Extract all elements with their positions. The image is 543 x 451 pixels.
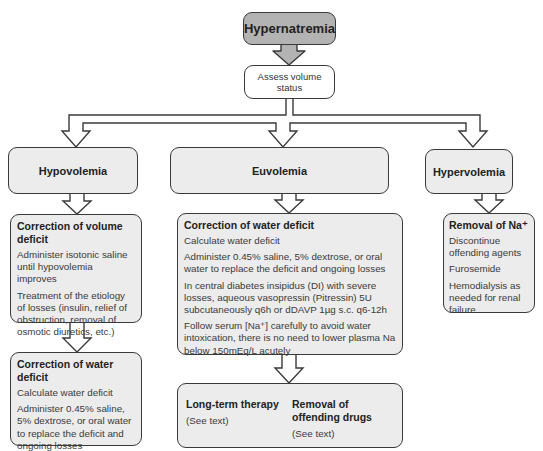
- hyper-step1-line: Discontinue offending agents: [449, 235, 529, 259]
- hypo-step2-line: Administer 0.45% saline, 5% dextrose, or…: [17, 403, 135, 451]
- hypo-step2-line: Calculate water deficit: [17, 387, 135, 399]
- arrow-root-to-assess: [273, 44, 305, 65]
- hypovolemia-label: Hypovolemia: [39, 165, 107, 177]
- arrow-hypo-to-step1: [63, 193, 91, 214]
- hypovolemia-node: Hypovolemia: [8, 147, 138, 194]
- arrow-eu-step1-to-step2: [275, 354, 303, 383]
- eu-step1-line: Administer 0.45% saline, 5% dextrose, or…: [184, 251, 396, 275]
- root-node-hypernatremia: Hypernatremia: [243, 12, 336, 45]
- assess-volume-node: Assess volume status: [244, 65, 335, 99]
- euvolemia-node: Euvolemia: [170, 147, 389, 194]
- hyper-step1-heading: Removal of Na⁺: [449, 219, 529, 232]
- hypo-volume-correction-node: Correction of volume deficit Administer …: [10, 214, 142, 323]
- eu-step1-line: Follow serum [Na⁺] carefully to avoid wa…: [184, 320, 396, 357]
- arrow-hyper-to-step1: [475, 193, 503, 213]
- hyper-na-removal-node: Removal of Na⁺ Discontinue offending age…: [443, 213, 535, 313]
- branch-connector-outer: [62, 98, 487, 147]
- hypo-step2-heading: Correction of water deficit: [17, 358, 135, 384]
- removal-drugs-column: Removal of offending drugs (See text): [288, 398, 394, 440]
- long-term-note: (See text): [186, 415, 288, 427]
- removal-drugs-note: (See text): [292, 428, 394, 440]
- long-term-therapy-column: Long-term therapy (See text): [186, 398, 288, 440]
- assess-label: Assess volume status: [245, 71, 334, 93]
- arrow-eu-to-step1: [275, 193, 303, 213]
- hypo-step1-line: Administer isotonic saline until hypovol…: [17, 249, 135, 286]
- hypo-step1-heading: Correction of volume deficit: [17, 220, 135, 246]
- hyper-step1-line: Hemodialysis as needed for renal failure: [449, 280, 529, 317]
- removal-drugs-heading: Removal of offending drugs: [292, 398, 394, 424]
- hyper-step1-line: Furosemide: [449, 263, 529, 275]
- root-label: Hypernatremia: [244, 21, 335, 36]
- long-term-heading: Long-term therapy: [186, 398, 288, 411]
- euvolemia-label: Euvolemia: [252, 165, 307, 177]
- hypervolemia-node: Hypervolemia: [425, 149, 513, 194]
- eu-water-correction-node: Correction of water deficit Calculate wa…: [177, 213, 403, 355]
- hypo-water-correction-node: Correction of water deficit Calculate wa…: [10, 352, 142, 446]
- hypervolemia-label: Hypervolemia: [433, 166, 505, 178]
- hypo-step1-line: Treatment of the etiology of losses (ins…: [17, 290, 135, 339]
- eu-followup-node: Long-term therapy (See text) Removal of …: [177, 383, 403, 448]
- eu-step1-heading: Correction of water deficit: [184, 219, 396, 232]
- eu-step1-line: In central diabetes insipidus (DI) with …: [184, 280, 396, 317]
- eu-step1-line: Calculate water deficit: [184, 235, 396, 247]
